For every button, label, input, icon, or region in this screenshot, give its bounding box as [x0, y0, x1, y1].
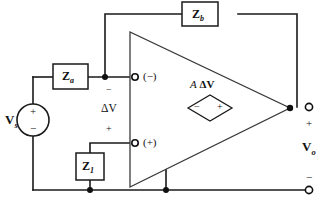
source-vs-plus-sign: + [30, 106, 36, 117]
node-dot-output [287, 105, 293, 111]
impedance-z1-label: Z1 [82, 160, 94, 175]
gain-symbol: A [190, 78, 197, 90]
source-vs-minus-sign: − [30, 123, 36, 134]
output-voltage-label: Vo [302, 140, 316, 156]
output-minus-sign: − [306, 172, 312, 183]
delta-v-minus-sign: − [106, 85, 112, 95]
impedance-zb-label: Zb [192, 8, 204, 23]
terminal-output-positive[interactable] [305, 103, 312, 110]
vo-letter: V [302, 139, 311, 154]
za-subscript: a [70, 76, 74, 85]
dependent-source-minus-sign: − [194, 102, 200, 112]
delta-v-label: ΔV [101, 103, 117, 115]
delta-v-text: ΔV [101, 102, 117, 114]
circuit-diagram: Zb Za Z1 Vs + − (−) (+) − ΔV + A ΔV − + … [0, 0, 327, 217]
inverting-terminal-label: (−) [143, 71, 157, 82]
node-dot-source-ground [163, 187, 169, 193]
terminal-inverting-open-circle[interactable] [132, 74, 138, 80]
zb-letter: Z [192, 7, 200, 21]
dependent-source-plus-sign: + [217, 102, 223, 112]
node-dot-inverting [102, 74, 108, 80]
output-plus-sign: + [306, 118, 312, 129]
vo-subscript: o [311, 147, 315, 157]
source-vs-label: Vs [5, 113, 18, 129]
zb-subscript: b [200, 14, 204, 23]
terminal-noninverting-open-circle[interactable] [132, 140, 138, 146]
node-dot-z1-ground [87, 187, 93, 193]
delta-v-plus-sign: + [106, 124, 112, 134]
z1-subscript: 1 [90, 166, 94, 175]
dependent-source-delta-v: ΔV [199, 78, 214, 90]
circuit-schematic-svg [0, 0, 327, 217]
wire-noninverting-to-z1 [90, 143, 132, 153]
dependent-source-label: A ΔV [190, 79, 214, 90]
za-letter: Z [62, 69, 70, 83]
vs-subscript: s [14, 120, 17, 130]
z1-letter: Z [82, 159, 90, 173]
vs-letter: V [5, 112, 14, 127]
impedance-za-label: Za [62, 70, 74, 85]
noninverting-terminal-label: (+) [143, 137, 157, 148]
terminal-output-negative[interactable] [305, 186, 312, 193]
